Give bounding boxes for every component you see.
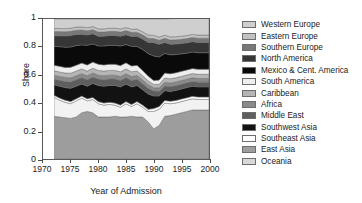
x-tick-mark [154,159,155,163]
legend-swatch-icon [242,44,256,51]
x-tick-mark [210,159,211,163]
legend-swatch-icon [242,21,256,28]
legend-item[interactable]: Africa [242,99,362,110]
stacked-area-svg [43,19,209,159]
legend-swatch-icon [242,55,256,62]
legend-item[interactable]: Mexico & Cent. America [242,65,362,76]
legend-item[interactable]: Oceania [242,156,362,167]
legend-item[interactable]: North America [242,53,362,64]
x-tick-mark [98,159,99,163]
legend-label: Oceania [261,157,292,166]
legend-item[interactable]: Eastern Europe [242,30,362,41]
legend-label: Western Europe [261,20,320,29]
y-tick-label: 0 [2,155,36,164]
legend-label: East Asia [261,145,295,154]
area-band [54,110,209,159]
x-tick-mark [126,159,127,163]
legend-item[interactable]: Southern Europe [242,42,362,53]
legend-swatch-icon [242,33,256,40]
plot-area [42,18,210,160]
legend-item[interactable]: East Asia [242,144,362,155]
legend-swatch-icon [242,112,256,119]
legend-item[interactable]: Southwest Asia [242,122,362,133]
legend-swatch-icon [242,135,256,142]
x-tick-mark [182,159,183,163]
legend-swatch-icon [242,124,256,131]
legend-label: Southern Europe [261,43,323,52]
legend-label: North America [261,54,313,63]
legend-label: Mexico & Cent. America [261,66,348,75]
legend-swatch-icon [242,67,256,74]
legend-label: South America [261,77,314,86]
legend-swatch-icon [242,90,256,97]
y-tick-label: 1 [2,13,36,22]
plot-left-gutter [43,19,54,159]
y-tick-label: 0.2 [2,127,36,136]
legend-swatch-icon [242,158,256,165]
legend-item[interactable]: Western Europe [242,19,362,30]
y-tick-label: 0.4 [2,98,36,107]
legend-label: Southwest Asia [261,123,317,132]
legend-label: Southeast Asia [261,134,316,143]
legend-label: Caribbean [261,89,299,98]
chart-legend: Western EuropeEastern EuropeSouthern Eur… [242,19,362,167]
stacked-area-chart-figure: Share 00.20.40.60.81 1970197519801985199… [0,0,362,203]
y-tick-label: 0.8 [2,41,36,50]
x-tick-label: 2000 [190,165,230,174]
x-axis-label: Year of Admission [42,186,210,196]
x-tick-mark [70,159,71,163]
legend-item[interactable]: Caribbean [242,87,362,98]
legend-item[interactable]: Southeast Asia [242,133,362,144]
legend-swatch-icon [242,78,256,85]
legend-item[interactable]: Middle East [242,110,362,121]
x-tick-mark [42,159,43,163]
legend-label: Middle East [261,111,304,120]
y-tick-label: 0.6 [2,70,36,79]
legend-label: Eastern Europe [261,32,318,41]
legend-item[interactable]: South America [242,76,362,87]
legend-swatch-icon [242,101,256,108]
legend-label: Africa [261,100,282,109]
legend-swatch-icon [242,146,256,153]
